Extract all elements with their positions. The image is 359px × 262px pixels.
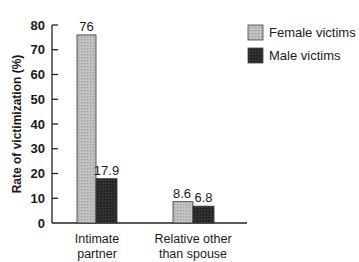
y-tick-label: 70 [31,42,45,57]
female-bar [77,35,96,223]
legend-label: Male victims [269,48,341,63]
bar-value-label: 6.8 [194,190,212,205]
category-label: than spouse [159,247,227,261]
legend-swatch [248,48,263,63]
bar-value-label: 8.6 [173,186,191,201]
male-bar [193,206,214,223]
y-tick-label: 30 [31,141,45,156]
y-tick-label: 60 [31,67,45,82]
bar-value-label: 17.9 [94,163,119,178]
y-tick-label: 20 [31,166,45,181]
y-tick-label: 10 [31,191,45,206]
y-tick-label: 40 [31,117,45,132]
female-bar [173,202,193,223]
bar-chart: Rate of victimization (%) 01020304050607… [0,0,359,262]
legend-label: Female victims [269,25,356,40]
y-tick-label: 80 [31,18,45,33]
y-axis-title: Rate of victimization (%) [10,55,24,194]
category-label: Intimate [75,232,120,246]
male-bar [96,179,117,223]
category-label: partner [77,247,117,261]
legend: Female victimsMale victims [248,25,356,63]
category-label: Relative other [154,232,231,246]
legend-swatch [248,25,263,40]
y-tick-label: 50 [31,92,45,107]
y-axis: 01020304050607080 [31,18,247,231]
x-axis-labels: IntimatepartnerRelative otherthan spouse [75,232,232,261]
bar-value-label: 76 [79,19,93,34]
bars: 7617.98.66.8 [77,19,214,223]
y-tick-label: 0 [38,216,45,231]
